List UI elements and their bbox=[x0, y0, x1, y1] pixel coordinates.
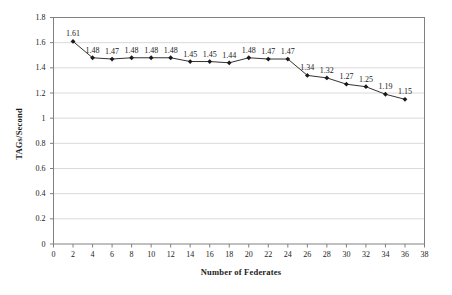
x-tick-label: 20 bbox=[245, 250, 253, 259]
data-point-label: 1.19 bbox=[378, 82, 392, 91]
data-point-label: 1.15 bbox=[398, 87, 412, 96]
x-tick-label: 22 bbox=[264, 250, 272, 259]
x-tick-label: 6 bbox=[110, 250, 114, 259]
data-point-label: 1.47 bbox=[281, 47, 295, 56]
x-tick-label: 26 bbox=[303, 250, 311, 259]
data-point-label: 1.45 bbox=[203, 50, 217, 59]
data-point-label: 1.27 bbox=[339, 72, 353, 81]
x-tick-label: 34 bbox=[381, 250, 389, 259]
x-tick-label: 38 bbox=[421, 250, 429, 259]
y-tick-label: 0 bbox=[42, 240, 46, 249]
line-chart-svg: 00.20.40.60.811.21.41.61.802468101214161… bbox=[0, 0, 452, 295]
data-point-label: 1.61 bbox=[66, 29, 80, 38]
data-point-label: 1.44 bbox=[222, 51, 236, 60]
data-point-label: 1.34 bbox=[300, 63, 314, 72]
x-tick-label: 2 bbox=[71, 250, 75, 259]
y-tick-label: 1 bbox=[42, 114, 46, 123]
x-tick-label: 30 bbox=[342, 250, 350, 259]
x-axis-title: Number of Federates bbox=[201, 267, 282, 277]
data-point-label: 1.47 bbox=[261, 47, 275, 56]
x-tick-label: 14 bbox=[186, 250, 194, 259]
data-point-label: 1.48 bbox=[86, 46, 100, 55]
y-tick-label: 1.2 bbox=[36, 89, 46, 98]
data-point-label: 1.45 bbox=[183, 50, 197, 59]
y-tick-label: 0.2 bbox=[36, 214, 46, 223]
x-tick-label: 12 bbox=[167, 250, 175, 259]
data-point-label: 1.47 bbox=[105, 47, 119, 56]
x-tick-label: 24 bbox=[284, 250, 292, 259]
y-tick-label: 0.4 bbox=[36, 189, 46, 198]
x-tick-label: 8 bbox=[130, 250, 134, 259]
data-point-label: 1.48 bbox=[125, 46, 139, 55]
y-tick-label: 1.8 bbox=[36, 13, 46, 22]
y-tick-label: 0.8 bbox=[36, 139, 46, 148]
x-tick-label: 10 bbox=[147, 250, 155, 259]
y-tick-label: 0.6 bbox=[36, 164, 46, 173]
x-tick-label: 36 bbox=[401, 250, 409, 259]
data-point-label: 1.48 bbox=[242, 46, 256, 55]
data-point-label: 1.48 bbox=[144, 46, 158, 55]
y-tick-label: 1.6 bbox=[36, 38, 46, 47]
x-tick-label: 18 bbox=[225, 250, 233, 259]
data-point-label: 1.25 bbox=[359, 75, 373, 84]
data-point-label: 1.32 bbox=[320, 66, 334, 75]
y-axis-title: TAGs/Second bbox=[14, 108, 24, 160]
x-tick-label: 4 bbox=[91, 250, 95, 259]
x-tick-label: 28 bbox=[323, 250, 331, 259]
x-tick-label: 0 bbox=[52, 250, 56, 259]
y-tick-label: 1.4 bbox=[36, 63, 46, 72]
x-tick-label: 16 bbox=[206, 250, 214, 259]
chart-figure: 00.20.40.60.811.21.41.61.802468101214161… bbox=[0, 0, 452, 295]
data-point-label: 1.48 bbox=[164, 46, 178, 55]
x-tick-label: 32 bbox=[362, 250, 370, 259]
